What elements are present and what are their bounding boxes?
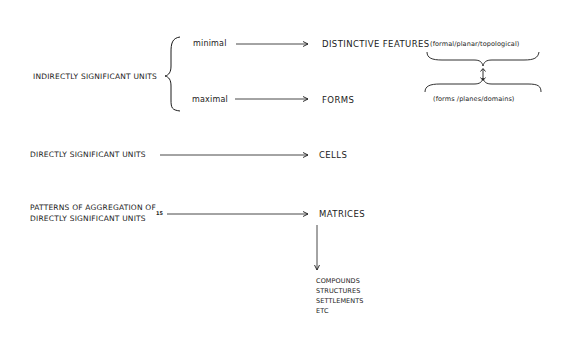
label-directly-significant-units: DIRECTLY SIGNIFICANT UNITS — [30, 151, 146, 159]
label-forms-planes-domains: (forms /planes/domains) — [433, 96, 515, 103]
left-brace-icon — [165, 37, 180, 111]
footnote-marker: 15 — [156, 211, 163, 216]
label-patterns-line2: DIRECTLY SIGNIFICANT UNITS — [30, 215, 146, 223]
label-cells: CELLS — [319, 151, 347, 160]
label-distinctive-features: DISTINCTIVE FEATURES — [322, 40, 430, 49]
label-minimal: minimal — [193, 40, 227, 48]
diagram-canvas: INDIRECTLY SIGNIFICANT UNITS minimal DIS… — [0, 0, 572, 360]
diagram-lines — [0, 0, 572, 360]
label-maximal: maximal — [192, 96, 228, 104]
example-item: ETC — [316, 308, 329, 315]
example-item: STRUCTURES — [316, 288, 360, 295]
label-matrices: MATRICES — [319, 210, 365, 219]
label-formal-planar-topological: (formal/planar/topological) — [430, 41, 520, 48]
example-item: SETTLEMENTS — [316, 298, 364, 305]
underbrace-icon — [427, 52, 539, 66]
label-forms: FORMS — [322, 96, 354, 105]
label-patterns-line1: PATTERNS OF AGGREGATION OF — [30, 204, 156, 212]
example-item: COMPOUNDS — [316, 278, 360, 285]
label-indirectly-significant-units: INDIRECTLY SIGNIFICANT UNITS — [33, 73, 157, 81]
